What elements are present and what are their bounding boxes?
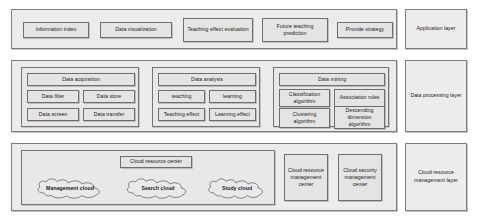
node-data-acquisition[interactable]: Data acquisition bbox=[27, 73, 135, 86]
application-layer-tag: Application layer bbox=[405, 9, 467, 49]
architecture-diagram: Information index Data visualization Tea… bbox=[0, 0, 478, 224]
node-data-store[interactable]: Data store bbox=[83, 90, 135, 103]
node-descending-dimension-algorithm[interactable]: Descending dimension algorithm bbox=[334, 106, 385, 129]
node-learning-effect[interactable]: Learning effect bbox=[209, 108, 256, 121]
data-processing-layer-row: Data acquisition Data filter Data store … bbox=[11, 60, 467, 132]
node-data-transfer[interactable]: Data transfer bbox=[83, 108, 135, 121]
group-data-mining: Data mining Classification algorithm Ass… bbox=[273, 67, 389, 127]
cloud-study-label: Study cloud bbox=[222, 185, 252, 191]
node-association-rules[interactable]: Association rules bbox=[334, 89, 385, 107]
data-processing-layer-panel: Data acquisition Data filter Data store … bbox=[11, 60, 397, 132]
cloud-resource-management-layer-row: Cloud resource center Management cloud S… bbox=[11, 143, 467, 211]
group-data-analysis: Data analysis teaching learning Teaching… bbox=[152, 67, 260, 127]
node-future-teaching-prediction[interactable]: Future teaching prediction bbox=[262, 18, 328, 42]
cloud-resource-management-layer-panel: Cloud resource center Management cloud S… bbox=[11, 143, 397, 211]
node-data-visualization[interactable]: Data visualization bbox=[100, 22, 172, 38]
cloud-management-label: Management cloud bbox=[46, 185, 94, 191]
node-information-index[interactable]: Information index bbox=[23, 22, 89, 38]
cloud-management-cloud[interactable]: Management cloud bbox=[32, 177, 108, 200]
node-cloud-resource-management-center[interactable]: Cloud resource management center bbox=[284, 154, 328, 201]
node-classification-algorithm[interactable]: Classification algorithm bbox=[279, 89, 330, 107]
group-cloud-resource-center: Cloud resource center Management cloud S… bbox=[21, 150, 275, 205]
cloud-resource-management-layer-tag: Cloud resource management layer bbox=[405, 143, 467, 211]
node-provide-strategy[interactable]: Provide strategy bbox=[337, 22, 393, 38]
data-processing-layer-tag: Data processing layer bbox=[405, 60, 467, 132]
node-teaching[interactable]: teaching bbox=[158, 90, 205, 103]
node-data-analysis[interactable]: Data analysis bbox=[158, 73, 256, 86]
application-layer-row: Information index Data visualization Tea… bbox=[11, 9, 467, 49]
node-clustering-algorithm[interactable]: Clustering algorithm bbox=[279, 108, 330, 128]
node-teaching-effect[interactable]: Teaching effect bbox=[158, 108, 205, 121]
cloud-search-label: Search cloud bbox=[141, 185, 174, 191]
node-learning[interactable]: learning bbox=[209, 90, 256, 103]
application-layer-panel: Information index Data visualization Tea… bbox=[11, 9, 397, 49]
node-data-mining[interactable]: Data mining bbox=[279, 73, 385, 86]
node-cloud-security-management-center[interactable]: Cloud security management center bbox=[338, 154, 382, 201]
node-data-screen[interactable]: Data screen bbox=[27, 108, 79, 121]
group-data-acquisition: Data acquisition Data filter Data store … bbox=[21, 67, 139, 127]
node-cloud-resource-center[interactable]: Cloud resource center bbox=[120, 156, 192, 168]
node-teaching-effect-evaluation[interactable]: Teaching effect evaluation bbox=[183, 18, 253, 42]
cloud-study-cloud[interactable]: Study cloud bbox=[204, 177, 270, 200]
node-data-filter[interactable]: Data filter bbox=[27, 90, 79, 103]
cloud-search-cloud[interactable]: Search cloud bbox=[122, 177, 194, 200]
